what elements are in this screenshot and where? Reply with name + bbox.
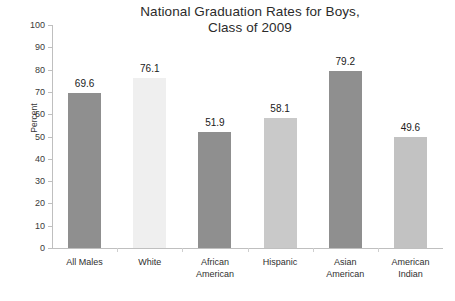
y-tick-label: 80 xyxy=(35,65,45,75)
x-axis-category-label: White xyxy=(117,256,182,268)
x-axis-category-label-line: White xyxy=(117,256,182,268)
x-axis-category-label-line: Hispanic xyxy=(248,256,313,268)
y-tick-label: 50 xyxy=(35,132,45,142)
x-axis-separator xyxy=(182,248,183,252)
y-tick-mark xyxy=(48,25,52,26)
bar-value-label: 69.6 xyxy=(75,78,94,89)
x-axis-category-label: AsianAmerican xyxy=(313,256,378,280)
y-tick-label: 70 xyxy=(35,87,45,97)
plot-area: 1009080706050403020100 69.676.151.958.17… xyxy=(52,25,443,248)
y-tick-label: 60 xyxy=(35,109,45,119)
y-tick-label: 100 xyxy=(30,20,45,30)
y-tick-mark xyxy=(48,92,52,93)
y-tick-label: 90 xyxy=(35,42,45,52)
x-axis-separator xyxy=(117,248,118,252)
x-axis-category-label-line: African xyxy=(182,256,247,268)
y-tick-mark xyxy=(48,47,52,48)
bar[interactable]: 58.1 xyxy=(264,118,297,248)
y-axis-line xyxy=(52,25,53,248)
bar-value-label: 76.1 xyxy=(140,63,159,74)
chart-title-line-1: National Graduation Rates for Boys, xyxy=(60,4,440,20)
y-tick-mark xyxy=(48,70,52,71)
bar-chart: National Graduation Rates for Boys, Clas… xyxy=(0,0,455,301)
x-axis-category-label: All Males xyxy=(52,256,117,268)
y-tick-mark xyxy=(48,114,52,115)
y-tick-label: 40 xyxy=(35,154,45,164)
bar-value-label: 58.1 xyxy=(270,103,289,114)
x-axis-category-label: AmericanIndian xyxy=(378,256,443,280)
y-tick-label: 0 xyxy=(40,243,45,253)
x-axis-separator xyxy=(313,248,314,252)
bar[interactable]: 79.2 xyxy=(329,71,362,248)
y-tick-label: 10 xyxy=(35,221,45,231)
bar-value-label: 49.6 xyxy=(401,122,420,133)
bar-value-label: 51.9 xyxy=(205,117,224,128)
x-axis-category-label-line: American xyxy=(182,268,247,280)
bar[interactable]: 49.6 xyxy=(394,137,427,248)
y-tick-mark xyxy=(48,248,52,249)
bar[interactable]: 76.1 xyxy=(133,78,166,248)
y-tick-mark xyxy=(48,181,52,182)
x-axis-separator xyxy=(378,248,379,252)
y-tick-mark xyxy=(48,226,52,227)
bar[interactable]: 69.6 xyxy=(68,93,101,248)
x-axis-category-label: AfricanAmerican xyxy=(182,256,247,280)
x-axis-category-label-line: Asian xyxy=(313,256,378,268)
y-tick-mark xyxy=(48,203,52,204)
x-axis-category-label-line: American xyxy=(313,268,378,280)
y-tick-label: 30 xyxy=(35,176,45,186)
y-tick-label: 20 xyxy=(35,198,45,208)
x-axis-category-label-line: Indian xyxy=(378,268,443,280)
x-axis-category-label-line: All Males xyxy=(52,256,117,268)
x-axis-category-label: Hispanic xyxy=(248,256,313,268)
y-tick-mark xyxy=(48,137,52,138)
x-axis-category-label-line: American xyxy=(378,256,443,268)
bar-value-label: 79.2 xyxy=(336,56,355,67)
bar[interactable]: 51.9 xyxy=(198,132,231,248)
x-axis-separator xyxy=(248,248,249,252)
y-tick-mark xyxy=(48,159,52,160)
